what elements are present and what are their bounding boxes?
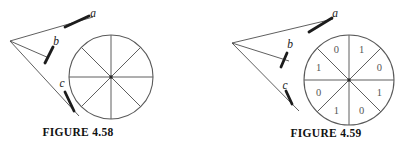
ray-label-c: c bbox=[59, 77, 64, 89]
figure-4-58-caption: FIGURE 4.58 bbox=[42, 126, 113, 138]
ray-a-line bbox=[232, 19, 333, 43]
figures-diagram: abc10101010abc bbox=[0, 0, 406, 145]
figure-4-59: 10101010abc bbox=[232, 7, 394, 125]
sector-digit: 0 bbox=[377, 62, 382, 73]
sector-digit: 0 bbox=[334, 44, 339, 55]
arrowhead-a bbox=[309, 18, 332, 32]
ray-label-a: a bbox=[90, 7, 96, 19]
sector-digit: 0 bbox=[359, 105, 364, 116]
ray-label-a: a bbox=[332, 7, 338, 19]
arrowhead-a bbox=[65, 16, 89, 27]
figure-4-58: abc bbox=[10, 7, 153, 119]
sector-digit: 0 bbox=[316, 87, 321, 98]
arrowhead-b bbox=[45, 47, 53, 63]
center-dot bbox=[109, 75, 112, 78]
ray-b-line bbox=[10, 41, 49, 58]
ray-label-b: b bbox=[287, 38, 293, 50]
sector-digit: 1 bbox=[359, 44, 364, 55]
ray-label-b: b bbox=[53, 35, 59, 47]
ray-label-c: c bbox=[282, 79, 287, 91]
page: abc10101010abc FIGURE 4.58 FIGURE 4.59 bbox=[0, 0, 406, 145]
sector-digit: 1 bbox=[334, 105, 339, 116]
figure-4-59-caption: FIGURE 4.59 bbox=[290, 127, 361, 139]
center-dot bbox=[347, 78, 350, 81]
sector-digit: 1 bbox=[316, 62, 321, 73]
arrowhead-c bbox=[286, 91, 292, 104]
sector-digit: 1 bbox=[377, 87, 382, 98]
